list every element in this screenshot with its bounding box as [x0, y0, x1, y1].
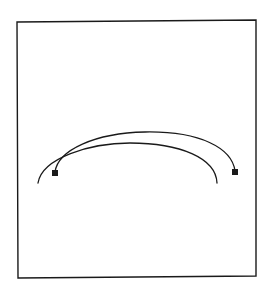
diagram-canvas — [0, 0, 271, 300]
right-square-marker — [232, 169, 238, 175]
background — [0, 0, 271, 300]
left-square-marker — [52, 170, 58, 176]
